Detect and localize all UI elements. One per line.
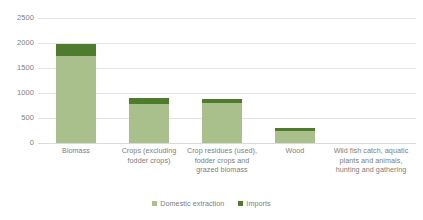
x-axis: Biomass Crops (excluding fodder crops) C… xyxy=(38,146,416,194)
bar-stack xyxy=(202,99,242,143)
gridline-zero xyxy=(38,143,416,144)
bar-group-biomass xyxy=(56,44,96,143)
bar-segment-domestic-extraction xyxy=(275,131,315,143)
y-tick-label: 500 xyxy=(4,114,34,122)
x-tick-label-biomass: Biomass xyxy=(40,146,112,156)
chart-legend: Domestic extraction Imports xyxy=(0,200,423,207)
y-tick-label: 2500 xyxy=(4,14,34,22)
legend-label: Imports xyxy=(246,200,270,207)
x-tick-label-wood: Wood xyxy=(259,146,331,156)
gridline-2500 xyxy=(38,18,416,19)
bar-stack xyxy=(56,44,96,143)
bar-stack xyxy=(275,128,315,143)
legend-item-domestic-extraction[interactable]: Domestic extraction xyxy=(152,200,224,207)
x-tick-label-crop-residues: Crop residues (used), fodder crops and g… xyxy=(184,146,260,175)
bar-group-crops xyxy=(129,98,169,143)
legend-item-imports[interactable]: Imports xyxy=(238,200,270,207)
stacked-bar-chart: 2500 2000 1500 1000 500 0 xyxy=(0,0,423,220)
bar-segment-domestic-extraction xyxy=(129,104,169,143)
bar-group-wood xyxy=(275,128,315,143)
bar-stack xyxy=(129,98,169,143)
bar-segment-domestic-extraction xyxy=(56,56,96,143)
y-tick-label: 2000 xyxy=(4,39,34,47)
bar-segment-imports xyxy=(56,44,96,56)
legend-swatch-icon xyxy=(152,201,157,206)
legend-label: Domestic extraction xyxy=(160,200,224,207)
x-tick-label-wild-fish-catch: Wild fish catch, aquatic plants and anim… xyxy=(330,146,412,175)
bar-segment-domestic-extraction xyxy=(202,103,242,143)
y-tick-label: 0 xyxy=(4,139,34,147)
y-tick-label: 1500 xyxy=(4,64,34,72)
y-axis: 2500 2000 1500 1000 500 0 xyxy=(0,18,34,143)
legend-swatch-icon xyxy=(238,201,243,206)
y-tick-label: 1000 xyxy=(4,89,34,97)
plot-area xyxy=(38,18,416,143)
bar-group-crop-residues xyxy=(202,99,242,143)
x-tick-label-crops: Crops (excluding fodder crops) xyxy=(111,146,187,165)
